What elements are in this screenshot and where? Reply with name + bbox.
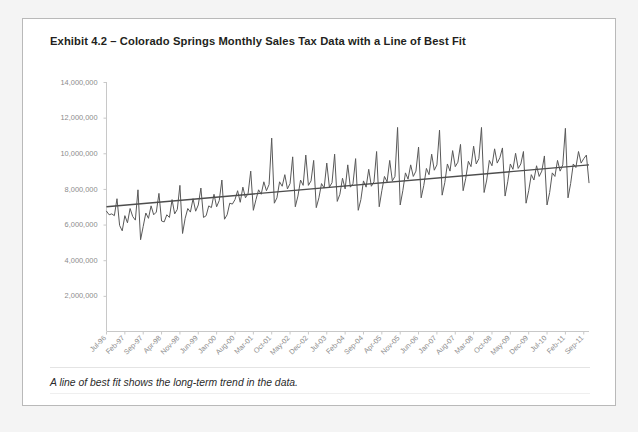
page-background: Exhibit 4.2 – Colorado Springs Monthly S… [0,0,638,432]
y-axis-tick-label: 8,000,000 [65,185,98,194]
y-axis-tick-label: 6,000,000 [65,220,98,229]
y-axis-tick-label: 14,000,000 [61,78,98,87]
y-axis-tick-label: 10,000,000 [61,149,98,158]
x-axis-tick-label: Dec-09 [507,334,530,357]
data-series-line [107,127,590,239]
card-bottom-divider [50,393,590,394]
x-axis-tick-label: May-09 [488,334,511,357]
x-axis-tick-label: Nov-98 [159,334,182,357]
x-axis-tick-label: Jun-06 [398,334,420,356]
x-axis-tick-labels: Jul-96Feb-97Sep-97Apr-98Nov-98Jun-99Jan-… [88,334,585,357]
caption-text: A line of best fit shows the long-term t… [50,377,298,388]
x-axis-tick-label: Mar-08 [453,334,475,356]
x-axis-tick-label: Mar-01 [232,334,254,356]
chart-canvas: 14,000,00012,000,00010,000,0008,000,0006… [23,59,617,364]
x-axis-tick-label: Nov-05 [379,334,402,357]
caption-divider [50,367,590,368]
y-axis-tick-label: 12,000,000 [61,113,98,122]
x-axis-tick-label: May-02 [268,334,291,357]
x-axis-tick-label: Sep-97 [122,334,145,357]
x-axis-tick-label: Dec-02 [287,334,310,357]
x-axis-tick-label: Sep-04 [342,334,365,357]
exhibit-card: Exhibit 4.2 – Colorado Springs Monthly S… [22,18,616,406]
line-chart: 14,000,00012,000,00010,000,0008,000,0006… [23,59,617,364]
trend-line [107,165,590,207]
x-axis-tick-label: Sep-11 [563,334,585,356]
y-axis-tick-label: 2,000,000 [65,291,98,300]
y-axis-tick-label: 4,000,000 [65,256,98,265]
x-axis-tick-label: Feb-04 [324,334,346,356]
x-axis-tick-label: Feb-11 [545,334,567,356]
y-axis-tick-labels: 14,000,00012,000,00010,000,0008,000,0006… [61,78,98,301]
x-axis-tick-label: Aug-00 [214,334,237,357]
x-axis-tick-label: Aug-07 [434,334,457,357]
x-axis-tick-label: Feb-97 [104,334,126,356]
page-title: Exhibit 4.2 – Colorado Springs Monthly S… [50,35,466,47]
x-axis-tick-label: Jun-99 [178,334,200,356]
